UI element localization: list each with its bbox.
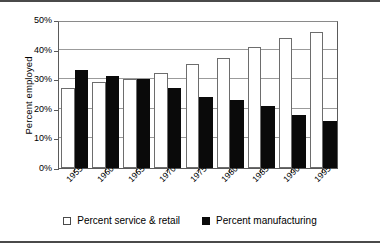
bar-manufacturing-1995 [323,121,337,168]
bar-group [248,22,275,168]
bar-service-retail-1970 [154,73,168,168]
bar-group [123,22,150,168]
bar-manufacturing-1975 [199,97,213,168]
bar-service-retail-1975 [186,64,200,168]
y-axis-tick-label: 30% [0,74,52,84]
bar-manufacturing-1990 [292,115,306,168]
chart-legend: Percent service & retailPercent manufact… [0,215,380,226]
legend-label: Percent service & retail [77,215,180,226]
plot-area [58,21,338,169]
y-axis-tick-label: 40% [0,45,52,55]
black-square-icon [202,217,210,225]
chart-figure: Percent employed 0%10%20%30%40%50% 19551… [0,0,380,243]
legend-item: Percent service & retail [63,215,180,226]
bar-service-retail-1955 [61,88,75,168]
bar-group [186,22,213,168]
y-axis-tick-label: 50% [0,15,52,25]
bar-group [310,22,337,168]
bar-service-retail-1965 [123,79,137,168]
bar-group [217,22,244,168]
bar-group [279,22,306,168]
bar-group [92,22,119,168]
y-axis-tick-mark [54,169,59,170]
bar-service-retail-1990 [279,38,293,168]
y-axis-tick-label: 10% [0,133,52,143]
legend-label: Percent manufacturing [216,215,317,226]
bar-service-retail-1960 [92,82,106,168]
y-axis-tick-label: 0% [0,163,52,173]
bar-service-retail-1985 [248,47,262,168]
bar-group [154,22,181,168]
bar-service-retail-1995 [310,32,324,168]
bar-manufacturing-1970 [168,88,182,168]
bar-service-retail-1980 [217,58,231,168]
y-axis-tick-label: 20% [0,104,52,114]
white-square-icon [63,217,71,225]
legend-item: Percent manufacturing [202,215,317,226]
bar-manufacturing-1965 [137,79,151,168]
bar-manufacturing-1955 [75,70,89,168]
bar-manufacturing-1985 [261,106,275,168]
bar-group [61,22,88,168]
bar-manufacturing-1980 [230,100,244,168]
y-axis-title: Percent employed [23,21,34,171]
bar-manufacturing-1960 [106,76,120,168]
